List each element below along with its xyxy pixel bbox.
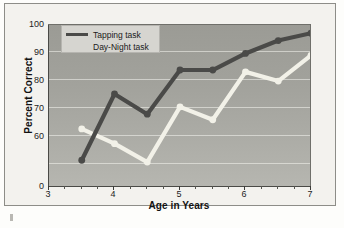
y-tick-label-100: 100 (14, 20, 44, 29)
x-tick-mark-minor-2 (81, 186, 82, 189)
data-point (177, 103, 184, 110)
legend-item-day-night-task: Day-Night task (62, 40, 159, 53)
data-point (177, 67, 184, 74)
page-artifact-mark (10, 214, 13, 221)
legend-swatch-day-night-task (66, 45, 88, 48)
x-tick-label-4: 4 (103, 189, 123, 199)
x-tick-label-6: 6 (234, 189, 254, 199)
data-point (111, 140, 118, 147)
x-tick-label-7: 7 (300, 189, 320, 199)
x-tick-mark-minor-8 (212, 186, 213, 189)
x-axis-title: Age in Years (48, 200, 310, 211)
data-point (242, 68, 249, 75)
x-tick-label-3: 3 (38, 189, 58, 199)
data-point (275, 78, 282, 85)
plot-right-rule (310, 24, 311, 186)
y-axis-title: Percent Correct (23, 41, 34, 151)
data-point (144, 159, 151, 166)
x-tick-mark-minor-1 (64, 186, 65, 189)
data-point (78, 126, 85, 133)
x-tick-mark-minor-11 (277, 186, 278, 189)
data-point (242, 50, 249, 57)
figure-frame: 100 90 80 70 60 0 (4, 3, 336, 206)
x-tick-mark-minor-4 (130, 186, 131, 189)
x-tick-mark-minor-10 (261, 186, 262, 189)
data-point (111, 91, 118, 98)
legend-label-day-night-task: Day-Night task (93, 42, 149, 52)
x-tick-mark-minor-12 (294, 186, 295, 189)
x-tick-label-5: 5 (169, 189, 189, 199)
data-point (78, 157, 85, 164)
x-tick-mark-minor-3 (97, 186, 98, 189)
x-tick-mark-minor-6 (163, 186, 164, 189)
x-tick-mark-minor-5 (146, 186, 147, 189)
figure-page: 100 90 80 70 60 0 (0, 0, 344, 228)
data-point (209, 116, 216, 123)
legend-swatch-tapping-task (66, 33, 88, 36)
chart-legend: Tapping task Day-Night task (61, 25, 160, 53)
data-point (144, 111, 151, 118)
x-tick-mark-minor-7 (195, 186, 196, 189)
data-point (209, 67, 216, 74)
x-tick-mark-minor-9 (228, 186, 229, 189)
legend-label-tapping-task: Tapping task (93, 30, 141, 40)
data-point (275, 37, 282, 44)
